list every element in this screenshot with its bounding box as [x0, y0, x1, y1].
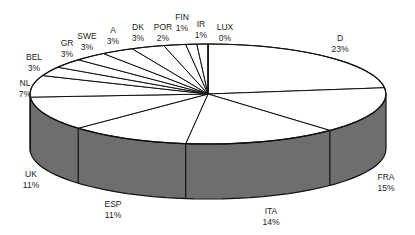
label-percent: 2% — [154, 33, 172, 44]
pie-top-face — [30, 44, 386, 144]
label-percent: 0% — [217, 33, 234, 44]
label-category: FIN — [175, 12, 189, 23]
label-ita: ITA14% — [262, 206, 279, 228]
label-category: ESP — [104, 199, 121, 210]
label-percent: 11% — [104, 210, 121, 221]
label-category: ITA — [262, 206, 279, 217]
label-percent: 23% — [331, 44, 348, 55]
label-dk: DK3% — [132, 22, 144, 44]
label-category: UK — [23, 169, 39, 180]
label-category: GR — [61, 38, 74, 49]
label-lux: LUX0% — [217, 22, 234, 44]
label-category: A — [107, 25, 119, 36]
label-ir: IR1% — [195, 19, 207, 41]
label-percent: 7% — [19, 89, 31, 100]
label-d: D23% — [331, 33, 348, 55]
slice-d — [208, 44, 385, 94]
label-percent: 15% — [377, 183, 394, 194]
label-percent: 3% — [107, 36, 119, 47]
label-category: DK — [132, 22, 144, 33]
label-percent: 14% — [262, 217, 279, 228]
label-percent: 1% — [195, 30, 207, 41]
label-nl: NL7% — [19, 78, 31, 100]
label-category: FRA — [377, 172, 394, 183]
label-percent: 1% — [175, 23, 189, 34]
label-gr: GR3% — [61, 38, 74, 60]
label-percent: 3% — [26, 63, 42, 74]
label-category: POR — [154, 22, 172, 33]
pie-chart-3d — [0, 0, 415, 235]
label-swe: SWE3% — [77, 31, 96, 53]
label-a: A3% — [107, 25, 119, 47]
label-category: BEL — [26, 52, 42, 63]
label-category: D — [331, 33, 348, 44]
label-bel: BEL3% — [26, 52, 42, 74]
label-fra: FRA15% — [377, 172, 394, 194]
label-percent: 11% — [23, 180, 39, 191]
label-category: IR — [195, 19, 207, 30]
label-percent: 3% — [132, 33, 144, 44]
label-uk: UK11% — [23, 169, 39, 191]
label-category: LUX — [217, 22, 234, 33]
label-percent: 3% — [61, 49, 74, 60]
label-category: NL — [19, 78, 31, 89]
label-por: POR2% — [154, 22, 172, 44]
label-esp: ESP11% — [104, 199, 121, 221]
label-percent: 3% — [77, 42, 96, 53]
label-fin: FIN1% — [175, 12, 189, 34]
label-category: SWE — [77, 31, 96, 42]
